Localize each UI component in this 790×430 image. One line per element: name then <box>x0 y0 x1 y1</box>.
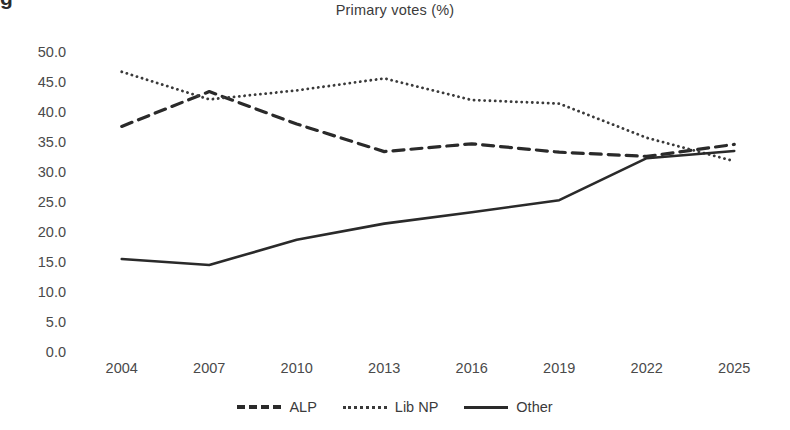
x-axis-tick-label: 2007 <box>169 360 249 376</box>
y-axis-tick-label: 50.0 <box>6 44 66 60</box>
x-axis-tick-label: 2022 <box>607 360 687 376</box>
y-axis-tick-label: 30.0 <box>6 164 66 180</box>
x-axis-tick-label: 2019 <box>519 360 599 376</box>
x-axis-tick-label: 2004 <box>82 360 162 376</box>
series-line-alp <box>122 92 735 157</box>
legend-entry-alp[interactable]: ALP <box>237 400 316 415</box>
legend-swatch-dotted-icon <box>343 406 387 409</box>
primary-votes-line-chart: g Primary votes (%) 50.045.040.035.030.0… <box>0 0 790 430</box>
legend-swatch-dashed-icon <box>237 405 281 409</box>
y-axis-tick-label: 5.0 <box>6 314 66 330</box>
legend-entry-other[interactable]: Other <box>464 400 552 415</box>
chart-legend: ALPLib NPOther <box>0 400 790 415</box>
y-axis-tick-label: 10.0 <box>6 284 66 300</box>
plot-area: 50.045.040.035.030.025.020.015.010.05.00… <box>78 52 778 352</box>
x-axis-tick-label: 2016 <box>432 360 512 376</box>
y-axis-tick-label: 45.0 <box>6 74 66 90</box>
legend-label: Other <box>516 400 552 415</box>
y-axis-tick-label: 40.0 <box>6 104 66 120</box>
legend-label: Lib NP <box>395 400 439 415</box>
legend-label: ALP <box>289 400 316 415</box>
y-axis-tick-label: 0.0 <box>6 344 66 360</box>
legend-swatch-solid-icon <box>464 406 508 409</box>
y-axis-tick-label: 15.0 <box>6 254 66 270</box>
y-axis-tick-label: 20.0 <box>6 224 66 240</box>
y-axis-tick-label: 25.0 <box>6 194 66 210</box>
x-axis-tick-label: 2013 <box>344 360 424 376</box>
chart-title: Primary votes (%) <box>0 2 790 18</box>
y-axis-tick-label: 35.0 <box>6 134 66 150</box>
series-line-other <box>122 151 735 265</box>
x-axis-tick-label: 2025 <box>694 360 774 376</box>
x-axis-tick-label: 2010 <box>257 360 337 376</box>
series-plot <box>78 52 778 352</box>
legend-entry-lib-np[interactable]: Lib NP <box>343 400 439 415</box>
